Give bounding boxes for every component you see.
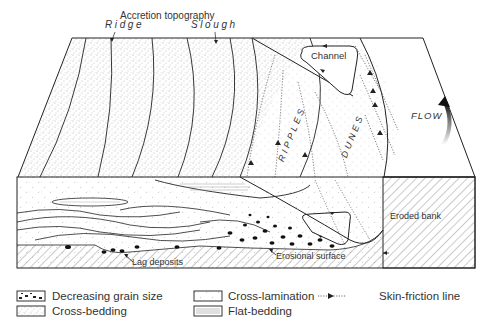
slough-label: Slough xyxy=(191,20,238,30)
legend-label: Decreasing grain size xyxy=(52,290,163,302)
legend-item-cross-bedding: Cross-bedding xyxy=(52,304,127,318)
legend-item-skin-friction-line: Skin-friction line xyxy=(379,289,460,303)
legend-item-decreasing-grain-size: Decreasing grain size xyxy=(52,289,163,303)
flow-label: FLOW xyxy=(411,111,442,121)
top-surface xyxy=(18,32,475,178)
erosional-surface-label: Erosional surface xyxy=(276,252,346,261)
cross-section xyxy=(17,177,475,268)
legend-item-flat-bedding: Flat-bedding xyxy=(228,304,292,318)
lag-deposits-label: Lag deposits xyxy=(132,258,183,267)
point-bar-block-diagram xyxy=(0,0,485,331)
channel-label: Channel xyxy=(311,51,346,61)
legend-label: Flat-bedding xyxy=(228,305,292,317)
eroded-bank-label: Eroded bank xyxy=(390,212,441,221)
legend-label: Cross-bedding xyxy=(52,305,127,317)
ridge-label: Ridge xyxy=(105,20,144,30)
legend-item-cross-lamination: Cross-lamination xyxy=(228,289,314,303)
legend-label: Cross-lamination xyxy=(228,290,314,302)
legend-label: Skin-friction line xyxy=(379,290,460,302)
